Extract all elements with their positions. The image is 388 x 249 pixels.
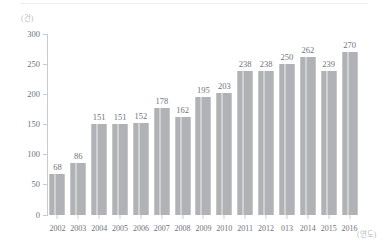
x-tick-mark [266,215,267,219]
x-tick-label: 2009 [195,224,211,233]
bar-slot: 2382011 [235,34,256,215]
bar-value-label: 239 [322,59,335,69]
bar-slot: 2622014 [297,34,318,215]
bar [92,124,107,215]
x-tick-label: 2007 [154,224,170,233]
x-tick-label: 2006 [133,224,149,233]
y-tick-label: 200 [27,89,40,99]
bar-value-label: 195 [197,85,210,95]
bar [300,57,315,215]
x-tick-label: 2016 [342,224,358,233]
x-tick-mark [182,215,183,219]
bar-slot: 1512005 [110,34,131,215]
bar-value-label: 151 [93,112,106,122]
bar [279,64,294,215]
bar-value-label: 86 [74,151,83,161]
y-tick-label: 300 [27,29,40,39]
x-tick-label: 2002 [49,224,65,233]
bar [175,117,190,215]
bar [133,123,148,215]
y-tick-label: 50 [32,179,41,189]
bar-value-label: 178 [155,96,168,106]
bar [50,174,65,215]
x-tick-mark [307,215,308,219]
x-tick-label: 2012 [258,224,274,233]
y-tick-label: 100 [27,149,40,159]
bar-slot: 682002 [47,34,68,215]
x-axis-unit-label: (연도) [357,228,376,239]
bar-value-label: 262 [301,45,314,55]
y-tick-label: 150 [27,119,40,129]
x-tick-mark [349,215,350,219]
top-divider [20,3,368,4]
bar-slot: 250013 [277,34,298,215]
bar-slot: 1782007 [151,34,172,215]
x-tick-label: 2011 [237,224,253,233]
x-tick-mark [245,215,246,219]
bar [238,71,253,215]
x-tick-mark [120,215,121,219]
bar-slot: 2382012 [256,34,277,215]
x-tick-mark [140,215,141,219]
bar [196,97,211,215]
bar-value-label: 68 [53,162,62,172]
bar-slot: 2702016 [339,34,360,215]
bar-slot: 1952009 [193,34,214,215]
y-tick-label: 250 [27,59,40,69]
x-tick-mark [224,215,225,219]
bar [71,163,86,215]
bar [217,93,232,215]
bar-slot: 2392015 [318,34,339,215]
plot-area: 050100150200250300 682002862003151200415… [47,34,360,215]
x-tick-label: 2005 [112,224,128,233]
x-tick-label: 2003 [70,224,86,233]
x-tick-label: 013 [281,224,293,233]
bar-value-label: 203 [218,81,231,91]
bar [321,71,336,215]
bar-slot: 2032010 [214,34,235,215]
x-tick-mark [161,215,162,219]
bar-value-label: 152 [135,111,148,121]
x-tick-mark [203,215,204,219]
bar-slot: 1522006 [130,34,151,215]
y-tick-label: 0 [36,210,40,220]
x-tick-mark [286,215,287,219]
x-tick-label: 2014 [300,224,316,233]
x-tick-label: 2015 [321,224,337,233]
bar [113,124,128,215]
x-tick-label: 2008 [175,224,191,233]
bar-value-label: 162 [176,105,189,115]
bar-value-label: 238 [260,59,273,69]
bar-slot: 862003 [68,34,89,215]
bar-slot: 1622008 [172,34,193,215]
bar-value-label: 250 [281,52,294,62]
x-tick-mark [57,215,58,219]
bar-slot: 1512004 [89,34,110,215]
x-tick-mark [99,215,100,219]
bar-value-label: 270 [343,40,356,50]
chart-page: (건) (연도) 050100150200250300 682002862003… [0,0,388,249]
bar [154,108,169,215]
x-tick-mark [78,215,79,219]
bar-value-label: 238 [239,59,252,69]
y-axis-unit-label: (건) [21,12,33,23]
bar [259,71,274,215]
x-tick-label: 2004 [91,224,107,233]
x-tick-mark [328,215,329,219]
bar-value-label: 151 [114,112,127,122]
bar-series: 6820028620031512004151200515220061782007… [47,34,360,215]
x-tick-label: 2010 [216,224,232,233]
bar [342,52,357,215]
